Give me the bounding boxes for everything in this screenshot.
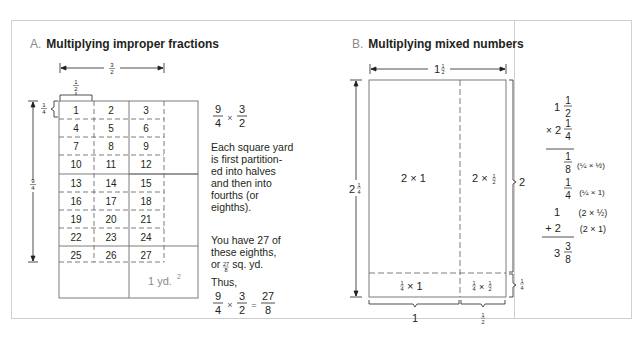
mixed-rectangle — [369, 80, 506, 297]
region-quarterxhalf: × — [479, 282, 484, 292]
bottom-brace-left — [369, 300, 459, 307]
bottom-brace-right — [461, 300, 505, 307]
svg-text:1: 1 — [357, 182, 360, 188]
region-2x1: 2 × 1 — [401, 172, 426, 184]
region-2xhalf: 2 × — [472, 172, 488, 184]
svg-text:4: 4 — [357, 189, 360, 195]
svg-text:2: 2 — [481, 319, 484, 325]
svg-text:2: 2 — [488, 286, 491, 292]
svg-text:2: 2 — [492, 179, 495, 185]
region-quarterx1: × 1 — [407, 280, 423, 292]
frame-right-extension — [514, 20, 632, 319]
svg-text:1: 1 — [434, 63, 440, 75]
svg-text:2: 2 — [349, 183, 355, 195]
svg-text:1: 1 — [481, 312, 484, 318]
svg-text:1: 1 — [412, 312, 418, 324]
svg-text:2: 2 — [441, 69, 444, 75]
svg-text:4: 4 — [472, 286, 475, 292]
svg-text:4: 4 — [400, 286, 403, 292]
